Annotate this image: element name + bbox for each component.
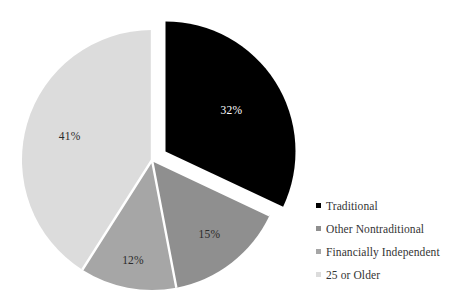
- pie-label-financially-independent: 12%: [122, 254, 144, 266]
- legend-item-label: 25 or Older: [326, 269, 380, 281]
- legend-swatch-icon: [316, 203, 321, 208]
- legend-item-traditional[interactable]: Traditional: [316, 194, 457, 217]
- legend-item-label: Other Nontraditional: [326, 223, 424, 235]
- legend-swatch-icon: [316, 226, 321, 231]
- legend-item-label: Financially Independent: [326, 246, 440, 258]
- pie-slices: [22, 21, 296, 290]
- legend-item-financially-independent[interactable]: Financially Independent: [316, 240, 457, 263]
- chart-legend: Traditional Other Nontraditional Financi…: [316, 194, 457, 286]
- legend-swatch-icon: [316, 249, 321, 254]
- pie-label-traditional: 32%: [221, 104, 243, 116]
- legend-item-25-or-older[interactable]: 25 or Older: [316, 263, 457, 286]
- legend-item-other-nontraditional[interactable]: Other Nontraditional: [316, 217, 457, 240]
- pie-label-other-nontraditional: 15%: [199, 228, 221, 240]
- legend-item-label: Traditional: [326, 200, 378, 212]
- pie-label-25-or-older: 41%: [59, 130, 81, 142]
- pie-chart-figure: 32% 15% 12% 41% Traditional Other Nontra…: [0, 0, 457, 306]
- legend-swatch-icon: [316, 272, 321, 277]
